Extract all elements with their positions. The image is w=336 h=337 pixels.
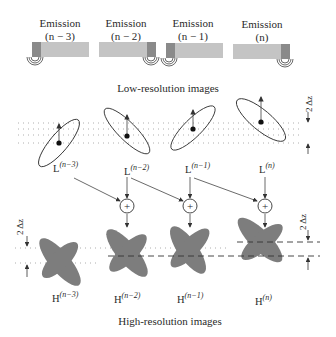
plus-icon: + [262,200,268,212]
emission-index: (n) [256,31,269,44]
emission-title: Emission [173,17,214,29]
displacement-label: 2 Δz [298,214,308,230]
emitter-element [32,42,41,57]
low-res-label-1: L(n−3) [53,160,78,174]
emission-group-2: Emission (n − 2) [99,17,159,65]
emitter-element [147,42,156,57]
wave-icon [27,57,43,65]
displacement-marker-low: 2 Δz [304,96,314,154]
emission-index: (n − 1) [178,30,208,43]
high-res-label-2: H(n−2) [114,291,141,305]
emission-index: (n − 3) [45,30,75,43]
high-res-caption: High-resolution images [118,315,222,327]
emission-title: Emission [242,18,283,30]
emission-group-3: Emission (n − 1) [161,17,223,66]
sum-node-2: + [183,199,197,213]
emitter-element [166,43,175,58]
high-res-image-3 [164,221,215,278]
high-res-label-4: H(n) [255,293,272,307]
diagram-canvas: Emission (n − 3) Emission (n − 2) Emissi… [0,0,336,337]
wave-icon [161,58,177,66]
displacement-label: 2 Δz [304,96,314,112]
accumulation-arrows [74,177,265,227]
plus-icon: + [124,200,130,212]
high-res-label-3: H(n−1) [177,291,204,305]
low-res-label-4: L(n) [259,161,275,175]
high-res-image-1 [33,233,87,292]
low-res-caption: Low-resolution images [117,82,219,94]
low-res-label-3: L(n−1) [185,161,210,175]
wave-icon [277,59,293,67]
emission-group-1: Emission (n − 3) [27,17,89,65]
low-res-image-3 [165,100,220,155]
plus-icon: + [187,200,193,212]
displacement-label: 2 Δz [15,219,25,235]
emission-index: (n − 2) [111,30,141,43]
wave-icon [143,57,159,65]
sum-node-3: + [258,199,272,213]
sum-node-1: + [120,199,134,213]
high-res-label-1: H(n−3) [52,290,79,304]
dotted-guides-low [18,123,300,143]
low-res-label-2: L(n−2) [124,163,149,177]
high-res-image-2 [100,224,154,283]
low-res-image-4 [231,92,291,147]
emission-title: Emission [40,17,81,29]
high-res-image-4 [232,212,289,269]
emitter-element [281,44,290,59]
low-res-image-2 [99,103,156,160]
emission-group-4: Emission (n) [233,18,293,67]
emission-title: Emission [106,17,147,29]
